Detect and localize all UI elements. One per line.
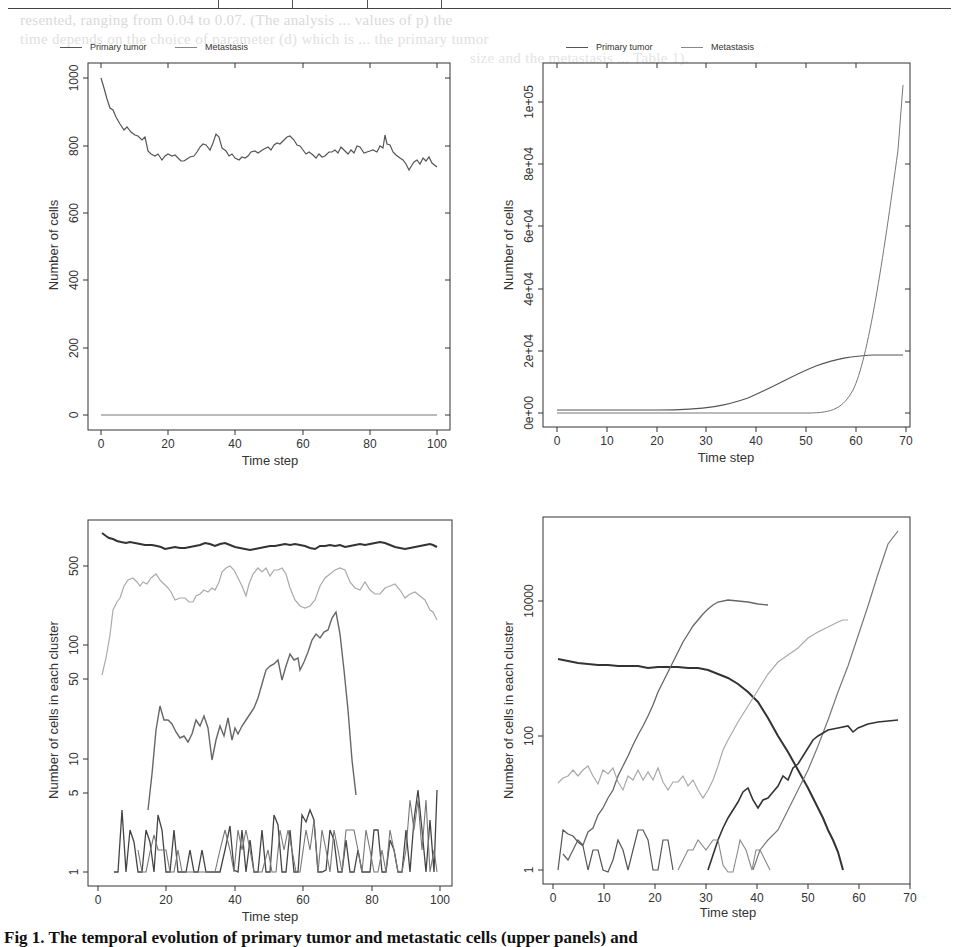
x-tick-label: 60 bbox=[296, 893, 310, 907]
series-metastasis bbox=[557, 85, 903, 413]
y-tick-label: 50 bbox=[67, 672, 81, 686]
series-cluster-e bbox=[708, 720, 898, 870]
y-tick-label: 100 bbox=[522, 726, 536, 746]
y-tick-label: 10 bbox=[67, 752, 81, 766]
series-cluster-d bbox=[753, 531, 898, 870]
y-tick-label: 1e+05 bbox=[522, 85, 536, 119]
x-axis-label: Time step bbox=[700, 905, 757, 920]
panel-bottom-left: 1 5 10 50 100 500 0 20 40 60 80 100 Time… bbox=[0, 470, 478, 925]
series-cluster-small bbox=[114, 790, 437, 872]
series-cluster-c bbox=[558, 620, 848, 798]
x-tick-label: 30 bbox=[699, 891, 713, 905]
x-tick-label: 100 bbox=[427, 437, 447, 451]
y-tick-label: 800 bbox=[67, 136, 81, 156]
plot-area: 0e+00 2e+04 4e+04 6e+04 8e+04 1e+05 0 10… bbox=[478, 0, 957, 470]
series-primary-tumor bbox=[557, 355, 903, 410]
x-tick-label: 0 bbox=[554, 434, 561, 448]
y-tick-label: 500 bbox=[67, 556, 81, 576]
x-tick-label: 30 bbox=[699, 434, 713, 448]
x-tick-label: 100 bbox=[430, 893, 450, 907]
series-cluster-a bbox=[558, 659, 843, 870]
y-tick-label: 200 bbox=[67, 338, 81, 358]
y-tick-label: 2e+04 bbox=[522, 334, 536, 368]
x-tick-label: 20 bbox=[159, 893, 173, 907]
y-axis-label: Number of cells bbox=[501, 199, 516, 290]
y-tick-label: 5 bbox=[67, 789, 81, 796]
y-axis-label: Number of cells in each cluster bbox=[46, 620, 61, 798]
plot-area: 1 100 10000 0 10 20 30 40 50 60 70 Time … bbox=[478, 470, 957, 925]
x-tick-label: 80 bbox=[363, 437, 377, 451]
series-cluster-light bbox=[102, 566, 437, 675]
x-tick-label: 50 bbox=[801, 891, 815, 905]
panel-top-left: Primary tumor Metastasis 0 200 400 600 8… bbox=[0, 0, 478, 470]
y-tick-label: 1000 bbox=[67, 64, 81, 91]
x-tick-label: 40 bbox=[228, 437, 242, 451]
y-tick-label: 10000 bbox=[522, 584, 536, 618]
plot-area: 0 200 400 600 800 1000 0 20 40 60 80 100… bbox=[0, 0, 478, 470]
x-tick-label: 40 bbox=[749, 434, 763, 448]
x-tick-label: 20 bbox=[650, 434, 664, 448]
x-tick-label: 10 bbox=[600, 434, 614, 448]
y-tick-label: 0 bbox=[67, 411, 81, 418]
y-tick-label: 8e+04 bbox=[522, 147, 536, 181]
y-tick-label: 6e+04 bbox=[522, 209, 536, 243]
x-axis-label: Time step bbox=[242, 909, 299, 924]
panel-bottom-right: 1 100 10000 0 10 20 30 40 50 60 70 Time … bbox=[478, 470, 957, 925]
x-tick-label: 70 bbox=[899, 434, 913, 448]
x-axis-label: Time step bbox=[242, 453, 299, 468]
series-primary-tumor bbox=[101, 78, 437, 170]
series-cluster-b bbox=[563, 600, 768, 860]
x-tick-label: 0 bbox=[95, 893, 102, 907]
x-tick-label: 60 bbox=[852, 891, 866, 905]
x-tick-label: 0 bbox=[550, 891, 557, 905]
x-tick-label: 40 bbox=[228, 893, 242, 907]
x-tick-label: 50 bbox=[799, 434, 813, 448]
x-tick-label: 60 bbox=[296, 437, 310, 451]
y-axis-label: Number of cells bbox=[46, 199, 61, 290]
plot-area: 1 5 10 50 100 500 0 20 40 60 80 100 Time… bbox=[0, 470, 478, 925]
y-axis-label: Number of cells in each cluster bbox=[501, 620, 516, 798]
x-tick-label: 10 bbox=[597, 891, 611, 905]
y-tick-label: 600 bbox=[67, 203, 81, 223]
figure-caption: Fig 1. The temporal evolution of primary… bbox=[4, 928, 638, 947]
x-tick-label: 40 bbox=[750, 891, 764, 905]
x-axis-label: Time step bbox=[698, 450, 755, 465]
series-cluster-dominant bbox=[102, 533, 437, 550]
y-tick-label: 1 bbox=[67, 868, 81, 875]
series-cluster-mid bbox=[148, 612, 356, 810]
y-tick-label: 100 bbox=[67, 635, 81, 655]
series-cluster-small-2 bbox=[678, 840, 770, 872]
x-tick-label: 20 bbox=[161, 437, 175, 451]
x-tick-label: 70 bbox=[903, 891, 917, 905]
series-cluster-small bbox=[558, 830, 673, 872]
y-tick-label: 1 bbox=[522, 866, 536, 873]
panel-top-right: Primary tumor Metastasis 0e+00 2e+04 4e+… bbox=[478, 0, 957, 470]
y-tick-label: 0e+00 bbox=[522, 396, 536, 430]
x-tick-label: 80 bbox=[365, 893, 379, 907]
x-tick-label: 20 bbox=[648, 891, 662, 905]
y-tick-label: 4e+04 bbox=[522, 272, 536, 306]
x-tick-label: 0 bbox=[98, 437, 105, 451]
y-tick-label: 400 bbox=[67, 270, 81, 290]
x-tick-label: 60 bbox=[849, 434, 863, 448]
